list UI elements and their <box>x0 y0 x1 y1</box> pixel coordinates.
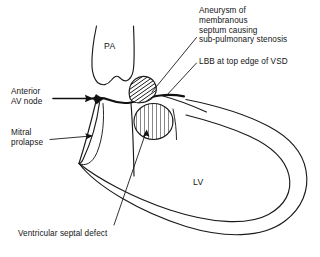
label-left-ventricle: LV <box>193 177 203 187</box>
label-pulmonary-artery: PA <box>104 41 115 51</box>
label-mitral-prolapse: Mitral prolapse <box>11 128 43 148</box>
pulmonary-artery-outline <box>92 26 134 85</box>
label-anterior-av-node: Anterior AV node <box>11 87 42 107</box>
leader-line-vsd <box>114 130 150 226</box>
label-aneurysm-of-membranous-septum: Aneurysm of membranous septum causing su… <box>199 6 287 45</box>
cardiac-diagram-figure: Aneurysm of membranous septum causing su… <box>0 0 320 257</box>
aneurysm-patch <box>129 76 156 102</box>
label-ventricular-septal-defect: Ventricular septal defect <box>18 229 107 239</box>
av-node-marker <box>94 95 104 105</box>
leader-line-aneurysm <box>152 38 197 93</box>
vsd-patch <box>134 104 173 140</box>
leader-line-av-node <box>53 95 94 102</box>
label-lbb-at-top-edge-of-vsd: LBB at top edge of VSD <box>199 57 288 67</box>
leader-line-lbb <box>167 63 197 96</box>
mitral-valve-leaflet <box>79 103 104 165</box>
left-ventricle-outline <box>79 100 307 235</box>
leader-line-mitral <box>50 133 93 139</box>
